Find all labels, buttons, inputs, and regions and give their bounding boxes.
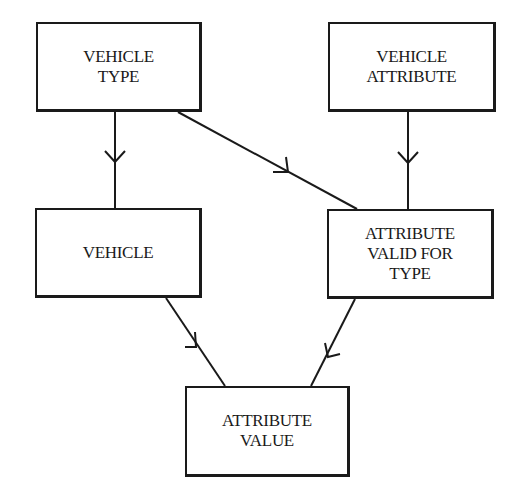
entity-label: VEHICLE ATTRIBUTE — [367, 47, 457, 87]
link-vehicle-type-to-vehicle — [105, 112, 125, 208]
entity-label: VEHICLE — [83, 243, 154, 263]
entity-vehicle-type: VEHICLE TYPE — [36, 22, 202, 112]
link-attribute-valid-for-type-to-attribute-value — [311, 299, 355, 386]
entity-vehicle: VEHICLE — [35, 208, 202, 298]
er-diagram: VEHICLE TYPE VEHICLE ATTRIBUTE VEHICLE A… — [0, 0, 525, 501]
link-vehicle-type-to-attribute-valid-for-type — [178, 112, 357, 209]
entity-label: ATTRIBUTE VALUE — [222, 411, 312, 451]
entity-attribute-valid-for-type: ATTRIBUTE VALID FOR TYPE — [327, 209, 494, 299]
entity-label: VEHICLE TYPE — [83, 47, 154, 87]
link-vehicle-attribute-to-attribute-valid-for-type — [398, 112, 418, 209]
entity-label: ATTRIBUTE VALID FOR TYPE — [365, 224, 455, 284]
entity-vehicle-attribute: VEHICLE ATTRIBUTE — [328, 22, 496, 112]
link-vehicle-to-attribute-value — [166, 298, 225, 386]
entity-attribute-value: ATTRIBUTE VALUE — [185, 386, 350, 477]
